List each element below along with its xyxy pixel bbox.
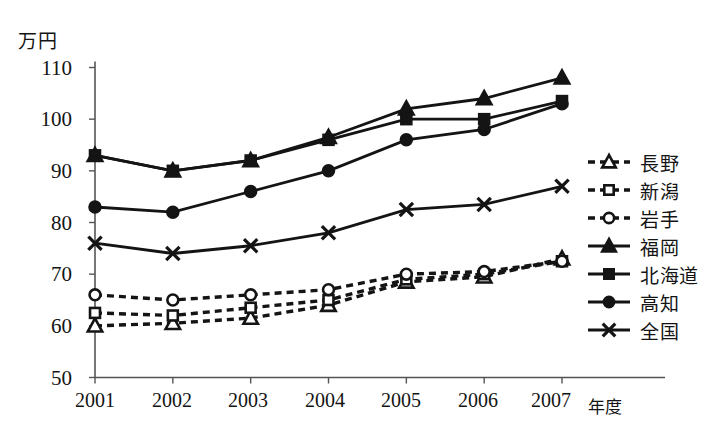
x-tick-2004: 2004 [290, 389, 360, 412]
legend-label-nagano: 長野 [640, 149, 679, 176]
legend-swatch-filled-triangle-icon [586, 236, 632, 256]
series-6 [88, 180, 568, 260]
series-3 [88, 70, 569, 176]
x-tick-2001: 2001 [60, 389, 130, 412]
legend-label-kochi: 高知 [640, 289, 679, 316]
legend-swatch-cross-x-icon [586, 320, 632, 340]
x-axis-label: 年度 [588, 393, 622, 418]
legend-swatch-open-circle-icon [586, 208, 632, 228]
series-4 [90, 96, 567, 176]
legend-item-zenkoku[interactable]: 全国 [586, 316, 726, 344]
legend-item-niigata[interactable]: 新潟 [586, 176, 726, 204]
legend-swatch-open-square-icon [586, 180, 632, 200]
legend-swatch-filled-circle-icon [586, 292, 632, 312]
legend-swatch-filled-square-icon [586, 264, 632, 284]
legend-item-fukuoka[interactable]: 福岡 [586, 232, 726, 260]
legend-label-fukuoka: 福岡 [640, 233, 679, 260]
legend-item-kochi[interactable]: 高知 [586, 288, 726, 316]
legend: 長野 新潟 岩手 福岡 北海道 高知 全国 [586, 148, 726, 344]
legend-label-niigata: 新潟 [640, 177, 679, 204]
x-tick-2002: 2002 [137, 389, 207, 412]
legend-swatch-open-triangle-icon [586, 152, 632, 172]
x-tick-2006: 2006 [443, 389, 513, 412]
legend-label-zenkoku: 全国 [640, 317, 679, 344]
legend-label-hokkaido: 北海道 [640, 261, 699, 288]
legend-item-nagano[interactable]: 長野 [586, 148, 726, 176]
x-tick-2003: 2003 [213, 389, 283, 412]
axis-lines [89, 62, 665, 384]
legend-item-hokkaido[interactable]: 北海道 [586, 260, 726, 288]
x-tick-2005: 2005 [366, 389, 436, 412]
chart-container: 万円 110 100 90 80 70 60 50 2001 2002 2003… [0, 0, 727, 443]
legend-item-iwate[interactable]: 岩手 [586, 204, 726, 232]
x-tick-2007: 2007 [516, 389, 586, 412]
legend-label-iwate: 岩手 [640, 205, 679, 232]
